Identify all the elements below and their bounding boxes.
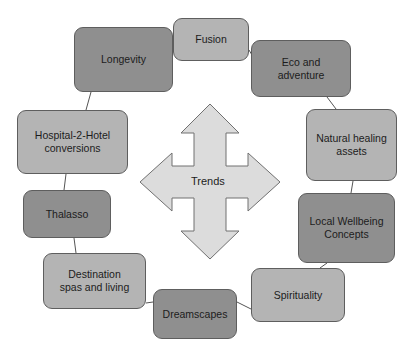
node-destination-spas-and-living: Destination spas and living [43,253,146,309]
node-fusion: Fusion [173,18,249,61]
connector-natural-local [351,181,353,193]
node-longevity: Longevity [74,27,173,92]
trends-diagram: Trends Fusion Eco and adventure Natural … [0,0,410,352]
connector-longevity-hospital [86,92,91,110]
node-thalasso: Thalasso [23,190,111,238]
node-spirituality: Spirituality [251,268,345,322]
connector-spirituality-dreamscapes [237,302,251,309]
node-hospital-2-hotel-conversions: Hospital-2-Hotel conversions [17,110,128,174]
node-local-wellbeing-concepts: Local Wellbeing Concepts [298,193,395,263]
connector-hospital-thalasso [64,174,66,190]
node-eco-and-adventure: Eco and adventure [251,40,351,97]
connector-dreamscapes-destination [146,302,153,303]
center-label: Trends [191,175,225,187]
connector-eco-natural [327,97,336,109]
node-dreamscapes: Dreamscapes [153,289,237,339]
node-natural-healing-assets: Natural healing assets [306,109,397,181]
connector-thalasso-destination [74,238,76,253]
